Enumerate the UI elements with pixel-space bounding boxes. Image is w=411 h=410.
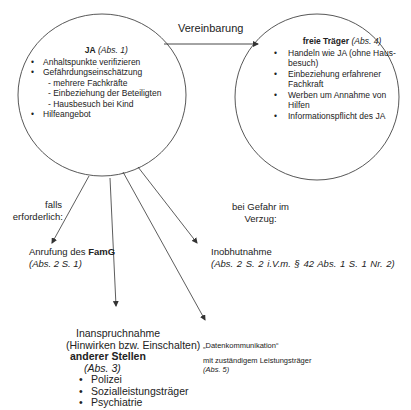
ja-item: Hilfeangebot (29, 109, 161, 120)
ja-subitem: - Hausbesuch bei Kind (48, 99, 161, 110)
ja-item: Gefährdungseinschätzung - mehrere Fachkr… (29, 67, 161, 109)
ja-title-label: JA (85, 45, 96, 55)
falls-erforderlich-label: falls erforderlich: (13, 199, 63, 223)
arrow-to-datenkommunikation (123, 172, 205, 320)
ja-title: JA (Abs. 1) (29, 45, 161, 56)
outcome-famg: Anrufung des FamG (Abs. 2 S. 1) (29, 246, 115, 270)
outcome-inanspruchnahme: Inanspruchnahme (Hinwirken bzw. Einschal… (74, 328, 200, 409)
freie-traeger-list: Handeln wie JA (ohne Haus-besuch) Einbez… (268, 48, 398, 122)
ja-title-ref: (Abs. 1) (98, 45, 128, 55)
freie-traeger-item: Handeln wie JA (ohne Haus-besuch) (268, 48, 398, 69)
gefahr-im-verzug-label: bei Gefahr im Verzug: (232, 201, 289, 225)
ja-list: Anhaltspunkte verifizieren Gefährdungsei… (29, 57, 161, 120)
ja-subitem: - mehrere Fachkräfte (48, 78, 161, 89)
andere-stellen-list: Polizei Sozialleistungsträger Psychiatri… (74, 374, 200, 409)
freie-traeger-item: Einbeziehung erfahrenerFachkraft (268, 69, 398, 90)
freie-traeger-item: Informationspflicht des JA (268, 111, 398, 122)
inobhut-ref: (Abs. 2 S. 2 i.V.m. § 42 Abs. 1 S. 1 Nr.… (211, 258, 395, 270)
outcome-datenkommunikation: „Datenkommunikation“ mit zuständigem Lei… (203, 341, 311, 374)
famg-label: FamG (88, 246, 115, 257)
freie-traeger-title-ref: (Abs. 4) (351, 36, 381, 46)
andere-stellen-label: anderer Stellen (70, 351, 200, 363)
ja-item: Anhaltspunkte verifizieren (29, 57, 161, 68)
freie-traeger-title: freie Träger (Abs. 4) (268, 36, 398, 47)
freie-traeger-node: freie Träger (Abs. 4) Handeln wie JA (oh… (268, 36, 398, 121)
arrow-to-inobhutnahme (138, 167, 197, 243)
andere-stelle-item: Polizei (77, 374, 200, 386)
arrow-to-inanspruchnahme (110, 178, 116, 306)
freie-traeger-item: Werben um Annahme vonHilfen (268, 90, 398, 111)
ja-subitem: - Einbeziehung der Beteiligten (48, 88, 161, 99)
ja-node: JA (Abs. 1) Anhaltspunkte verifizieren G… (29, 45, 161, 120)
famg-ref: (Abs. 2 S. 1) (29, 258, 115, 270)
daten-label: „Datenkommunikation“ (203, 341, 311, 350)
outcome-inobhutnahme: Inobhutnahme (Abs. 2 S. 2 i.V.m. § 42 Ab… (211, 246, 395, 270)
vereinbarung-label: Vereinbarung (178, 22, 243, 35)
inobhut-label: Inobhutnahme (211, 246, 395, 258)
andere-stelle-item: Psychiatrie (77, 397, 200, 409)
daten-ref: (Abs. 5) (203, 365, 311, 374)
freie-traeger-title-label: freie Träger (303, 36, 349, 46)
